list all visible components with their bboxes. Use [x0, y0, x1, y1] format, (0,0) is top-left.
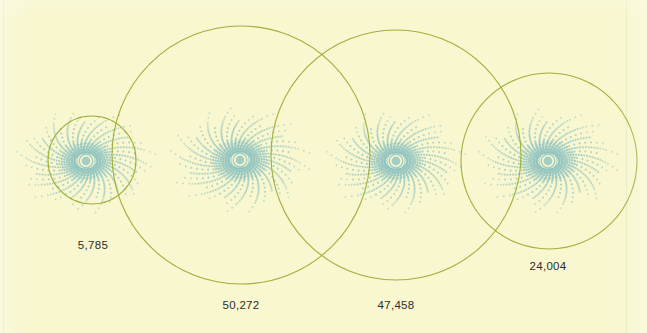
paper-edge-right — [626, 0, 627, 333]
figure-canvas: 5,785 50,272 47,458 24,004 — [0, 0, 647, 333]
value-label-second: 50,272 — [223, 299, 260, 311]
paper-edge-left — [3, 0, 4, 333]
proportional-circle-diagram — [0, 0, 647, 333]
value-label-first: 5,785 — [78, 239, 108, 251]
value-label-fourth: 24,004 — [530, 260, 567, 272]
value-label-third: 47,458 — [378, 299, 415, 311]
